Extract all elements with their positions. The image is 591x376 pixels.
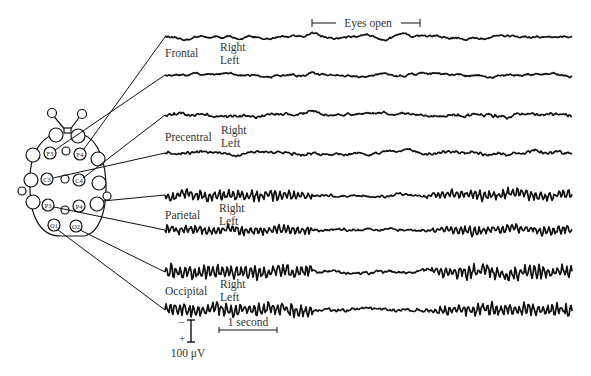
side-label-left: Left (220, 291, 246, 304)
side-labels-parietal: Right Left (219, 202, 245, 227)
electrode-label-p4: P4 (76, 203, 84, 210)
electrode-label-f4: F4 (77, 151, 85, 158)
electrode-t6 (90, 197, 104, 211)
electrode-label-c4: C4 (75, 177, 83, 184)
region-label-precentral: Precentral (165, 131, 212, 143)
electrode-label-c3: C3 (43, 176, 51, 183)
side-label-left: Left (219, 215, 245, 228)
connector-f3-frontal-left (55, 75, 165, 150)
region-label-frontal: Frontal (165, 47, 198, 59)
electrode-t3 (24, 173, 38, 187)
eeg-trace-frontal-right (165, 32, 572, 40)
electrode-label-p3: P3 (45, 202, 52, 209)
eeg-trace-frontal-left (165, 72, 572, 78)
connector-lines (53, 37, 165, 310)
eeg-diagram: F3 F4 C3 C4 P3 P4 O1 O2 E (0, 0, 591, 376)
electrode-label-f3: F3 (47, 150, 54, 157)
time-scale-label: 1 second (228, 316, 269, 328)
electrode-fp1 (49, 128, 63, 142)
electrode-label-o2: O2 (72, 223, 80, 230)
electrode-a1 (18, 187, 26, 195)
voltage-minus-sign: − (178, 316, 184, 328)
side-label-left: Left (220, 54, 246, 67)
connector-c3-precentral-left (53, 153, 165, 178)
eeg-traces (165, 32, 572, 317)
electrode-label-o1: O1 (50, 222, 58, 229)
connector-o1-occipital-left (58, 230, 165, 310)
region-label-parietal: Parietal (165, 209, 200, 221)
voltage-plus-sign: + (179, 332, 185, 344)
connector-f4-frontal-right (84, 37, 165, 149)
electrode-t5 (26, 195, 40, 209)
region-label-occipital: Occipital (165, 285, 207, 297)
electrode-t4 (92, 176, 106, 190)
voltage-scale-bar (187, 320, 195, 342)
reference-electrode (78, 110, 87, 119)
side-label-right: Right (219, 202, 245, 215)
side-labels-occipital: Right Left (220, 278, 246, 303)
electrode-head-map (18, 109, 111, 237)
connector-o2-occipital-right (80, 230, 165, 272)
voltage-scale-label: 100 μV (171, 347, 206, 360)
eeg-trace-occipital-left (165, 302, 572, 318)
electrode-a2 (103, 192, 111, 200)
reference-electrode (48, 109, 57, 118)
side-label-left: Left (221, 137, 247, 150)
eeg-trace-precentral-left (165, 149, 572, 157)
eeg-trace-parietal-right (165, 187, 572, 201)
electrode-fz (62, 147, 70, 155)
eeg-trace-precentral-right (165, 111, 572, 119)
connector-p4-parietal-right (103, 195, 165, 201)
side-label-right: Right (220, 278, 246, 291)
side-labels-precentral: Right Left (221, 124, 247, 149)
side-label-right: Right (221, 124, 247, 137)
side-labels-frontal: Right Left (220, 41, 246, 66)
electrode-f7 (26, 148, 40, 162)
side-label-right: Right (220, 41, 246, 54)
eyes-open-label: Eyes open (344, 17, 392, 30)
electrode-f8 (91, 152, 105, 166)
nasion-marker (64, 128, 71, 133)
eeg-figure: F3 F4 C3 C4 P3 P4 O1 O2 E (0, 0, 591, 376)
